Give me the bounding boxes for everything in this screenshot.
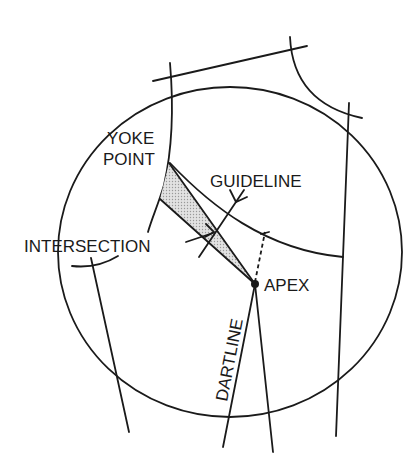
pattern-diagram: YOKE POINT GUIDELINE INTERSECTION APEX D… <box>0 0 414 474</box>
shoulder-line <box>153 46 307 81</box>
dart-leg-down <box>255 284 273 452</box>
label-dartline: DARTLINE <box>212 317 247 403</box>
label-point: POINT <box>103 150 155 169</box>
label-intersection: INTERSECTION <box>24 237 151 256</box>
center-front-line <box>336 103 349 436</box>
label-yoke: YOKE <box>107 129 154 148</box>
side-seam-line <box>91 258 129 432</box>
dart-extension-tick <box>261 232 269 234</box>
neckline-curve <box>290 37 362 118</box>
label-guideline: GUIDELINE <box>210 172 302 191</box>
label-apex: APEX <box>264 276 309 295</box>
dart-extension-dashed <box>255 232 265 282</box>
side-curve <box>72 256 118 267</box>
guideline-arrow-icon <box>230 190 247 202</box>
dart-leg-lower <box>160 199 255 284</box>
